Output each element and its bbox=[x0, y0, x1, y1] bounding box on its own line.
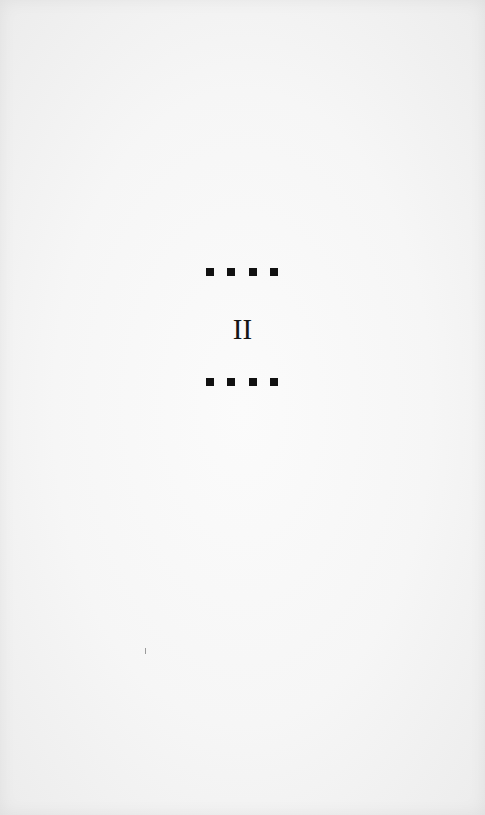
square-ornament-icon bbox=[206, 378, 214, 386]
square-ornament-icon bbox=[270, 378, 278, 386]
section-numeral: II bbox=[0, 312, 485, 346]
bottom-ornament-row bbox=[206, 378, 278, 386]
book-page: II bbox=[0, 0, 485, 815]
square-ornament-icon bbox=[227, 268, 235, 276]
paper-speck bbox=[145, 648, 146, 654]
top-ornament-row bbox=[206, 268, 278, 276]
square-ornament-icon bbox=[249, 268, 257, 276]
square-ornament-icon bbox=[249, 378, 257, 386]
square-ornament-icon bbox=[206, 268, 214, 276]
square-ornament-icon bbox=[270, 268, 278, 276]
square-ornament-icon bbox=[227, 378, 235, 386]
